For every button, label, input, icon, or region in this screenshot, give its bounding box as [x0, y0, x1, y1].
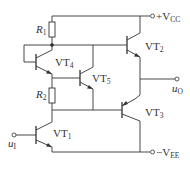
- transistor-vt4: [24, 45, 52, 85]
- vcc-label: +VCC: [156, 10, 180, 24]
- input-label: uI: [8, 137, 17, 151]
- r2-label: R2: [35, 88, 47, 102]
- output-terminal: [175, 77, 179, 81]
- vee-label: −VEE: [156, 146, 180, 160]
- vt1-label: VT1: [53, 127, 72, 141]
- vcc-rail: [52, 14, 155, 22]
- r1-label: R1: [35, 23, 47, 37]
- transistor-vt3: [122, 95, 140, 152]
- circuit-diagram: +VCC R1 VT4 R2 VT5: [0, 0, 190, 173]
- vt3-label: VT3: [145, 106, 164, 120]
- vt4-label: VT4: [55, 56, 74, 70]
- resistor-r1: [49, 22, 55, 37]
- vee-rail: [52, 150, 155, 154]
- transistor-vt2: [127, 16, 140, 95]
- transistor-vt1: [36, 110, 52, 152]
- vt5-label: VT5: [92, 72, 111, 86]
- resistor-r2: [49, 88, 55, 103]
- output-label: uO: [172, 82, 184, 96]
- vt2-label: VT2: [145, 40, 164, 54]
